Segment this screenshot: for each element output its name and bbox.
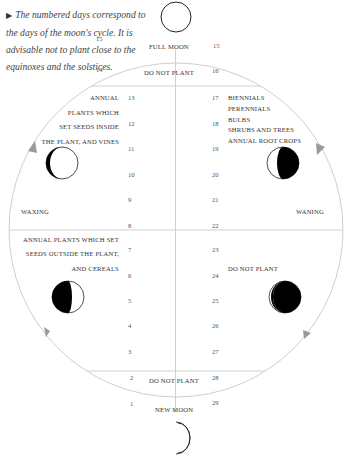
day-23: 23 xyxy=(212,246,219,253)
ur-line-4: SHRUBS AND TREES xyxy=(228,126,294,133)
day-20: 20 xyxy=(212,171,219,178)
ul-line-4: THE PLANT, AND VINES xyxy=(42,138,119,145)
bottom-do-not-plant: DO NOT PLANT xyxy=(149,377,199,384)
day-26: 26 xyxy=(212,322,219,329)
new-moon-label: NEW MOON xyxy=(155,406,193,413)
day-28: 28 xyxy=(212,374,219,381)
day-1: 1 xyxy=(130,400,133,407)
day-16: 16 xyxy=(212,67,219,74)
day-8: 8 xyxy=(128,222,131,229)
waning-label: WANING xyxy=(296,208,324,215)
ll-line-2: SEEDS OUTSIDE THE PLANT, xyxy=(26,250,119,257)
ll-line-3: AND CEREALS xyxy=(72,265,119,272)
day-22: 22 xyxy=(212,222,219,229)
day-15-left: 15 xyxy=(96,35,103,42)
day-25: 25 xyxy=(212,297,219,304)
full-moon-icon xyxy=(161,2,191,32)
ll-line-1: ANNUAL PLANTS WHICH SET xyxy=(23,236,119,243)
day-3: 3 xyxy=(128,348,131,355)
day-9: 9 xyxy=(128,196,131,203)
day-11: 11 xyxy=(128,145,134,152)
day-6: 6 xyxy=(128,272,131,279)
day-24: 24 xyxy=(212,272,219,279)
lr-do-not-plant: DO NOT PLANT xyxy=(228,265,278,272)
day-7: 7 xyxy=(128,246,131,253)
waxing-gibbous-icon xyxy=(267,147,299,179)
ul-line-3: SET SEEDS INSIDE xyxy=(59,123,119,130)
ur-line-5: ANNUAL ROOT CROPS xyxy=(228,137,301,144)
day-29: 29 xyxy=(212,399,219,406)
ul-line-1: ANNUAL xyxy=(90,94,119,101)
waxing-crescent-icon xyxy=(46,147,78,179)
day-5: 5 xyxy=(128,297,131,304)
day-17: 17 xyxy=(212,94,219,101)
new-moon-crescent-icon xyxy=(176,422,190,454)
day-12: 12 xyxy=(128,120,135,127)
day-14: 14 xyxy=(96,66,103,73)
day-27: 27 xyxy=(212,348,219,355)
day-10: 10 xyxy=(128,171,135,178)
waning-crescent-icon xyxy=(269,281,301,313)
day-13: 13 xyxy=(128,94,135,101)
ur-line-2: PERENNIALS xyxy=(228,105,270,112)
day-4: 4 xyxy=(128,322,131,329)
top-do-not-plant: DO NOT PLANT xyxy=(144,69,194,76)
ur-line-3: BULBS xyxy=(228,116,250,123)
day-19: 19 xyxy=(212,145,219,152)
waxing-label: WAXING xyxy=(21,208,49,215)
day-15-right: 15 xyxy=(213,42,220,49)
day-21: 21 xyxy=(212,196,219,203)
day-18: 18 xyxy=(212,120,219,127)
full-moon-label: FULL MOON xyxy=(149,43,189,50)
day-2: 2 xyxy=(130,374,133,381)
waning-gibbous-icon xyxy=(52,281,84,313)
ur-line-1: BIENNIALS xyxy=(228,94,265,101)
ul-line-2: PLANTS WHICH xyxy=(68,109,119,116)
